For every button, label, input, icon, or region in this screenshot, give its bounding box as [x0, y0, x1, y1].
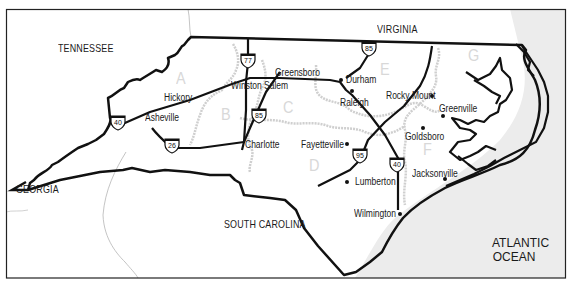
ocean-label-line2: OCEAN — [492, 251, 536, 263]
city-label-lumberton: Lumberton — [355, 177, 396, 187]
region-letter-e: E — [380, 61, 390, 78]
ocean-label: ATLANTIC OCEAN — [492, 237, 536, 263]
city-dot-wilmington — [398, 212, 402, 216]
state-border-ga — [6, 210, 28, 212]
city-dot-raleigh — [350, 89, 354, 93]
city-dot-fayetteville — [345, 142, 349, 146]
interstate-number: 26 — [164, 142, 180, 149]
interstate-shield-85-south-icon: 85 — [251, 107, 267, 124]
region-letter-c: C — [283, 99, 293, 116]
city-label-hickory: Hickory — [164, 93, 192, 103]
city-label-goldsboro: Goldsboro — [405, 132, 444, 142]
state-label-georgia: GEORGIA — [16, 184, 59, 195]
ocean-label-line1: ATLANTIC — [492, 237, 536, 249]
city-dot-greenville — [441, 114, 445, 118]
city-label-greensboro: Greensboro — [275, 68, 320, 78]
city-label-rocky-mount: Rocky Mount — [386, 91, 436, 101]
interstate-shield-40-east-icon: 40 — [389, 156, 405, 173]
city-label-wilmington: Wilmington — [354, 209, 396, 219]
city-label-charlotte: Charlotte — [245, 140, 279, 150]
city-label-jacksonville: Jacksonville — [412, 169, 458, 179]
city-dot-durham — [339, 78, 343, 82]
state-label-tennessee: TENNESSEE — [58, 43, 114, 54]
city-label-fayetteville: Fayetteville — [301, 140, 344, 150]
city-dot-goldsboro — [421, 126, 425, 130]
city-label-durham: Durham — [346, 75, 376, 85]
city-label-winston-salem: Winston Salem — [231, 81, 288, 91]
interstate-number: 40 — [389, 161, 405, 168]
interstate-number: 95 — [352, 152, 368, 159]
city-label-asheville: Asheville — [145, 113, 179, 123]
interstate-number: 85 — [251, 112, 267, 119]
state-label-virginia: VIRGINIA — [377, 24, 418, 35]
state-border-tn-va — [188, 9, 191, 37]
interstate-shield-85-north-icon: 85 — [361, 40, 377, 57]
city-dot-lumberton — [345, 180, 349, 184]
region-letter-a: A — [176, 70, 186, 87]
region-letter-g: G — [468, 47, 479, 64]
interstate-shield-77-icon: 77 — [240, 52, 256, 69]
interstate-number: 85 — [361, 45, 377, 52]
interstate-shield-95-icon: 95 — [352, 147, 368, 164]
interstate-number: 40 — [110, 119, 126, 126]
state-label-south-carolina: SOUTH CAROLINA — [224, 219, 306, 230]
city-label-greenville: Greenville — [439, 104, 477, 114]
interstate-shield-26-icon: 26 — [164, 137, 180, 154]
region-letter-d: D — [309, 157, 319, 174]
region-letter-f: F — [423, 141, 432, 158]
interstate-shield-40-west-icon: 40 — [110, 114, 126, 131]
region-letter-b: B — [221, 106, 231, 123]
interstate-number: 77 — [240, 57, 256, 64]
city-label-raleigh: Raleigh — [340, 98, 369, 108]
